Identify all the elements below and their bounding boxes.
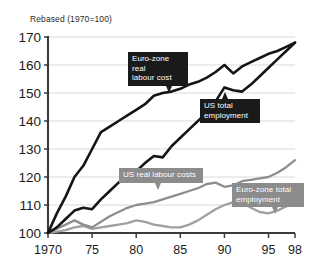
- x-axis-tick-label: 90: [217, 243, 231, 257]
- x-axis-tick-label: 80: [129, 243, 143, 257]
- plot-svg: 100110120130140150160170 197075808590959…: [0, 0, 319, 271]
- y-axis-tick-label: 110: [19, 198, 41, 213]
- annotation-us-real-labour-costs: US real labour costs: [119, 168, 203, 183]
- y-axis-tick-labels: 100110120130140150160170: [18, 30, 41, 241]
- x-axis-tick-label: 98: [288, 243, 302, 257]
- annotation-label: US total employment: [200, 99, 260, 123]
- y-axis-tick-label: 100: [18, 226, 41, 241]
- annotation-pointer: [272, 207, 278, 214]
- annotation-pointer: [166, 86, 172, 93]
- annotation-label: Euro-zone real labour cost: [128, 52, 188, 86]
- annotation-euro-zone-real-labour-cost: Euro-zone real labour cost: [128, 52, 188, 86]
- annotation-label: US real labour costs: [119, 168, 203, 183]
- annotation-euro-zone-total-employment: Euro-zone total employment: [232, 183, 304, 207]
- annotation-us-total-employment: US total employment: [200, 99, 260, 123]
- annotation-label: Euro-zone total employment: [232, 183, 304, 207]
- annotation-pointer: [155, 183, 161, 190]
- y-axis-tick-label: 150: [18, 86, 41, 101]
- y-axis-tick-label: 130: [18, 142, 41, 157]
- x-axis-tick-labels: 1970758085909598: [34, 243, 302, 257]
- x-axis-tick-label: 95: [262, 243, 276, 257]
- annotation-pointer: [222, 92, 228, 99]
- x-axis-tick-label: 1970: [34, 243, 62, 257]
- y-axis-tick-label: 170: [18, 30, 41, 45]
- plot-area: 100110120130140150160170 197075808590959…: [0, 0, 319, 271]
- chart-figure: Rebased (1970=100) 100110120130140150160…: [0, 0, 319, 271]
- x-axis-tick-label: 85: [173, 243, 187, 257]
- y-axis-tick-label: 120: [18, 170, 41, 185]
- y-axis-tick-label: 160: [18, 58, 41, 73]
- y-axis-tick-label: 140: [18, 114, 41, 129]
- x-axis-tick-label: 75: [85, 243, 99, 257]
